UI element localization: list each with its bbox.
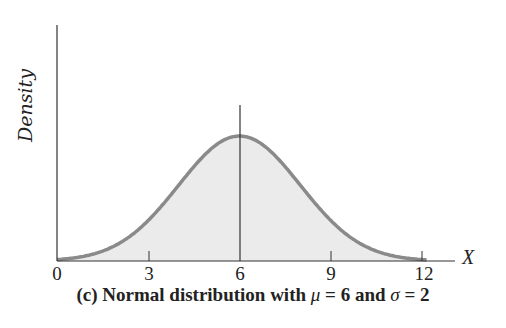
x-axis-label: X [462, 246, 474, 269]
caption-prefix: (c) Normal distribution with [76, 284, 310, 305]
caption-sigma: σ [390, 284, 399, 305]
x-tick-label-3: 3 [144, 263, 154, 285]
density-area [57, 136, 427, 261]
x-tick-label-0: 0 [52, 263, 62, 285]
x-tick-label-6: 6 [235, 263, 245, 285]
y-axis-label: Density [14, 69, 36, 142]
x-tick-label-12: 12 [415, 263, 434, 285]
x-tick-label-9: 9 [326, 263, 336, 285]
caption-mu: μ [311, 284, 321, 305]
caption-mid: = 6 and [320, 284, 390, 305]
chart-caption: (c) Normal distribution with μ = 6 and σ… [0, 284, 506, 306]
caption-suffix: = 2 [400, 284, 430, 305]
